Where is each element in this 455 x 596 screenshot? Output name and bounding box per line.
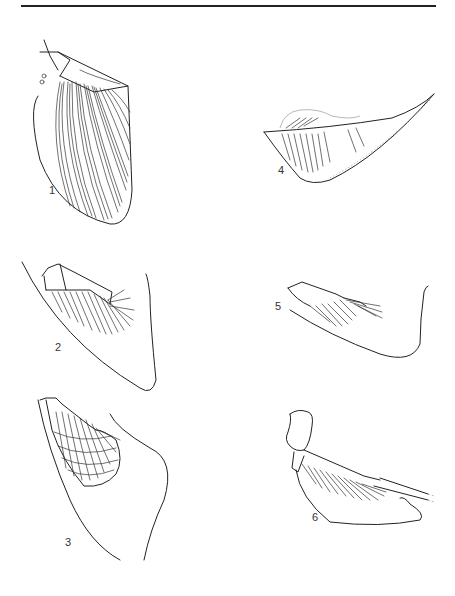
- panel-label-2: 2: [55, 341, 61, 353]
- figure-drawings: [0, 0, 455, 596]
- panel-5-drawing: [288, 282, 428, 357]
- panel-6-drawing: [286, 410, 434, 524]
- panel-3-drawing: [38, 398, 168, 560]
- panel-2-drawing: [22, 262, 156, 391]
- panel-4-drawing: [264, 94, 434, 183]
- panel-label-6: 6: [312, 511, 318, 523]
- panel-label-5: 5: [275, 300, 281, 312]
- panel-label-1: 1: [49, 184, 55, 196]
- panel-label-4: 4: [278, 164, 284, 176]
- panel-label-3: 3: [65, 536, 71, 548]
- panel-1-drawing: [33, 40, 132, 224]
